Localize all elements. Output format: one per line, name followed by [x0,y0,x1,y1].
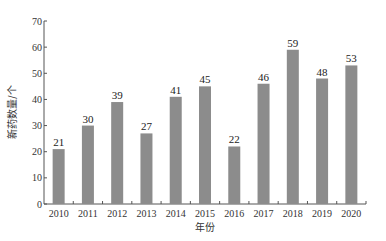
y-tick-label: 40 [32,94,42,105]
x-tick-label: 2010 [49,208,69,219]
bars: 2130392741452246594853 [53,37,358,204]
y-tick-label: 70 [32,16,42,27]
y-tick-label: 30 [32,120,42,131]
bar [287,50,299,204]
bar-value-label: 30 [82,113,94,125]
bar [82,126,94,204]
x-tick-label: 2018 [283,208,303,219]
bar-value-label: 59 [287,37,299,49]
bar [53,149,65,204]
bar [199,86,211,204]
x-tick-label: 2012 [107,208,127,219]
bar-value-label: 53 [346,52,358,64]
bar-value-label: 48 [317,66,329,78]
y-axis-title: 新药数量/个 [6,85,18,138]
y-tick-label: 60 [32,42,42,53]
bar-value-label: 41 [170,84,181,96]
x-axis-title: 年份 [195,221,215,233]
bar-chart: 010203040506070 201020112012201320142015… [0,0,386,241]
x-tick-label: 2019 [312,208,332,219]
x-tick-label: 2017 [254,208,274,219]
y-tick-label: 20 [32,146,42,157]
bar [228,146,240,204]
x-tick-label: 2011 [78,208,98,219]
y-tick-label: 50 [32,68,42,79]
bar [140,133,152,204]
x-tick-label: 2020 [341,208,361,219]
x-tick-label: 2014 [166,208,186,219]
y-axis: 010203040506070 [32,16,47,210]
x-tick-label: 2015 [195,208,215,219]
y-tick-label: 10 [32,172,42,183]
x-tick-label: 2013 [136,208,156,219]
bar-value-label: 21 [53,136,64,148]
bar [345,65,357,204]
bar [258,84,270,204]
x-tick-label: 2016 [224,208,244,219]
y-tick-label: 0 [37,199,42,210]
bar [316,79,328,204]
bar-value-label: 46 [258,71,270,83]
bar-value-label: 27 [141,120,153,132]
bar [111,102,123,204]
bar-value-label: 22 [229,133,240,145]
bar-value-label: 45 [200,73,212,85]
bar-value-label: 39 [112,89,124,101]
bar [170,97,182,204]
